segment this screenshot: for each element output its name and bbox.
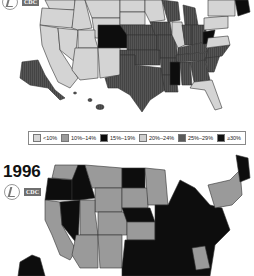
state-kansas xyxy=(127,222,155,240)
swatch-25-29 xyxy=(178,134,186,142)
legend-item: 10%–14% xyxy=(61,134,96,142)
state-arizona xyxy=(72,235,98,268)
state-alabama xyxy=(180,62,192,85)
state-north-dakota xyxy=(122,168,145,188)
state-florida xyxy=(190,80,222,110)
state-new-mexico xyxy=(98,235,122,268)
state-hawaii xyxy=(96,105,104,110)
state-montana xyxy=(85,0,120,18)
state-north-dakota xyxy=(120,0,145,12)
legend-label: 10%–14% xyxy=(71,135,96,141)
legend-label: 15%–19% xyxy=(110,135,135,141)
state-new-york xyxy=(208,0,235,16)
state-colorado xyxy=(98,212,127,235)
legend-item: 25%–29% xyxy=(178,134,213,142)
legend-label: 25%–29% xyxy=(188,135,213,141)
state-oregon xyxy=(45,178,72,200)
state-utah xyxy=(80,200,98,235)
swatch-15-19 xyxy=(100,134,108,142)
legend-label: ≥30% xyxy=(227,135,241,141)
swatch-gte30 xyxy=(217,134,225,142)
state-minnesota xyxy=(145,0,165,22)
state-mississippi xyxy=(170,62,180,85)
state-ny-newengland xyxy=(208,170,242,208)
state-wyoming xyxy=(95,188,122,212)
state-south-dakota xyxy=(122,188,148,208)
us-map-bottom xyxy=(0,150,254,276)
state-pennsylvania xyxy=(204,16,228,30)
legend-item: 20%–24% xyxy=(139,134,174,142)
state-michigan xyxy=(183,5,198,25)
legend-label: 20%–24% xyxy=(149,135,174,141)
legend: <10% 10%–14% 15%–19% 20%–24% 25%–29% ≥30… xyxy=(28,131,246,145)
legend-label: <10% xyxy=(43,135,57,141)
hhs-eagle-icon xyxy=(2,0,18,10)
state-alaska xyxy=(18,255,45,276)
state-oregon xyxy=(40,8,75,28)
state-arizona xyxy=(72,48,98,80)
state-kansas xyxy=(127,35,157,50)
legend-item: 15%–19% xyxy=(100,134,135,142)
state-new-mexico xyxy=(98,48,120,78)
swatch-20-24 xyxy=(139,134,147,142)
legend-item: <10% xyxy=(33,134,57,142)
swatch-10-14 xyxy=(61,134,69,142)
state-utah xyxy=(78,30,98,48)
cdc-logo: CDC xyxy=(22,0,39,6)
state-nebraska xyxy=(122,208,155,222)
state-south-dakota xyxy=(120,12,145,25)
state-new-england xyxy=(235,0,250,16)
swatch-lt10 xyxy=(33,134,41,142)
us-map-top xyxy=(0,0,254,125)
logos-top: CDC xyxy=(2,0,39,10)
legend-item: ≥30% xyxy=(217,134,241,142)
state-minnesota xyxy=(145,168,168,205)
